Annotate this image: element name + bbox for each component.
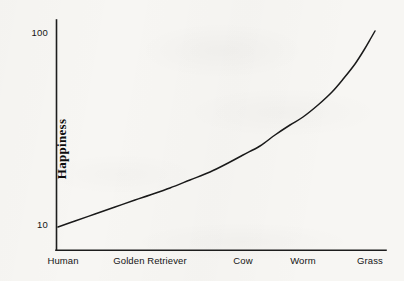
y-tick-label-10: 10 xyxy=(10,219,48,230)
y-tick-label-100: 100 xyxy=(10,27,48,38)
x-tick-label-worm: Worm xyxy=(290,255,316,266)
x-tick-label-grass: Grass xyxy=(357,255,383,266)
x-tick-label-human: Human xyxy=(47,255,78,266)
x-tick-label-golden-retriever: Golden Retriever xyxy=(113,255,186,266)
x-tick-label-cow: Cow xyxy=(233,255,252,266)
y-axis-title: Happiness xyxy=(54,119,70,180)
happiness-curve xyxy=(58,31,375,227)
chart-figure: 100 10 Happiness Human Golden Retriever … xyxy=(0,0,404,281)
